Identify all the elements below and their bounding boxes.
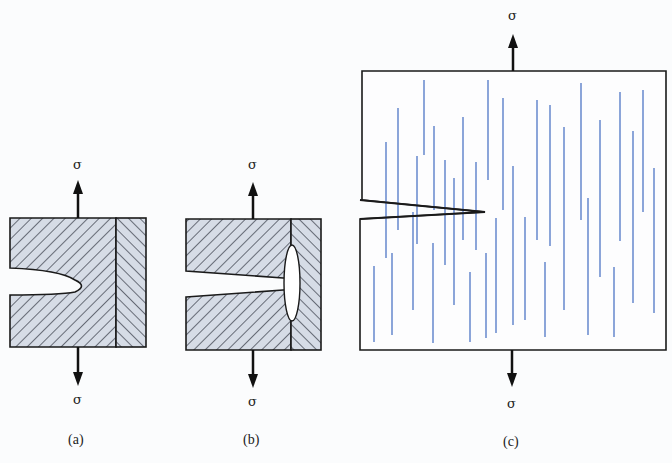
figure-canvas bbox=[0, 0, 672, 463]
panel-b-upper-matrix bbox=[186, 219, 291, 278]
panel-c bbox=[360, 34, 666, 387]
panel-b bbox=[186, 182, 321, 388]
panel-b-lower-matrix bbox=[186, 290, 291, 350]
panel-b-bottom-stress-label: σ bbox=[248, 394, 257, 409]
panel-a-caption: (a) bbox=[68, 432, 84, 448]
panel-a bbox=[10, 180, 146, 386]
panel-b-debond-void bbox=[284, 245, 300, 321]
panel-a-interface-layer bbox=[116, 218, 146, 347]
panel-c-top-stress-label: σ bbox=[508, 8, 517, 23]
panel-c-bottom-stress-label: σ bbox=[507, 396, 516, 411]
panel-a-matrix bbox=[10, 218, 116, 347]
panel-b-top-stress-label: σ bbox=[248, 157, 257, 172]
panel-a-bottom-stress-label: σ bbox=[73, 392, 82, 407]
panel-c-caption: (c) bbox=[503, 434, 519, 450]
panel-a-top-stress-label: σ bbox=[73, 157, 82, 172]
panel-b-caption: (b) bbox=[243, 432, 259, 448]
